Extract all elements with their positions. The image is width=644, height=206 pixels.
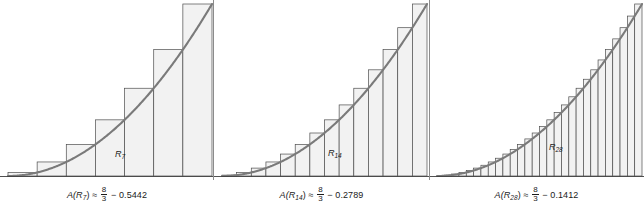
panel-r28-caption-value: 0.1412 (550, 190, 578, 200)
panel-r28-caption-minus: − (542, 190, 547, 200)
panel-r7: R7 A(R7) ≈ 8 3 − 0.5442 (0, 0, 214, 206)
riemann-rectangle (598, 60, 605, 176)
panel-r28-caption-lead: A( (495, 190, 504, 200)
panel-divider-1 (213, 0, 214, 180)
panel-r14-inner-label-sub: 14 (335, 152, 342, 159)
panel-r7-caption-symbol: R (76, 190, 83, 200)
panel-r14-caption-lead: A( (280, 190, 289, 200)
riemann-rectangle (398, 28, 413, 176)
panel-r28-inner-label-sub: 28 (556, 146, 563, 153)
panel-r7-caption-close: ) ≈ (86, 190, 97, 200)
panel-r28-caption-fraction: 8 3 (532, 186, 539, 203)
panel-r14-caption: A(R14) ≈ 8 3 − 0.2789 (214, 187, 429, 204)
panel-r14-caption-value: 0.2789 (335, 190, 363, 200)
riemann-rectangle (591, 70, 598, 176)
riemann-sum-figure: R7 A(R7) ≈ 8 3 − 0.5442 R14 A(R14) ≈ 8 (0, 0, 644, 206)
panel-r14-caption-fraction-numerator: 8 (317, 186, 324, 194)
riemann-rectangle (576, 88, 583, 176)
panel-r7-inner-label: R7 (115, 149, 125, 160)
riemann-rectangle (620, 28, 627, 176)
panel-r28-caption-close: ) ≈ (518, 190, 529, 200)
panel-r28-caption: A(R28) ≈ 8 3 − 0.1412 (429, 187, 644, 204)
riemann-rectangle (532, 133, 539, 176)
panel-r28-caption-fraction-denominator: 3 (532, 194, 539, 203)
panel-r7-inner-label-sub: 7 (122, 153, 126, 160)
panel-r7-caption-fraction: 8 3 (101, 186, 108, 203)
riemann-rectangle (613, 39, 620, 176)
riemann-rectangle (95, 120, 124, 176)
riemann-rectangle (183, 4, 212, 176)
panel-r7-caption-value: 0.5442 (119, 190, 147, 200)
panel-divider-2 (429, 0, 430, 180)
panel-r14-caption-fraction-denominator: 3 (317, 194, 324, 203)
panel-r28-caption-symbol-sub: 28 (510, 194, 517, 201)
riemann-rectangle (635, 4, 642, 176)
panel-r7-caption-minus: − (111, 190, 116, 200)
riemann-rectangle (125, 88, 154, 176)
riemann-rectangle (627, 16, 634, 176)
panel-r14: R14 A(R14) ≈ 8 3 − 0.2789 (214, 0, 429, 206)
riemann-rectangle (605, 50, 612, 176)
riemann-rectangle (569, 97, 576, 176)
panel-r14-caption-fraction: 8 3 (317, 186, 324, 203)
panel-r14-caption-close: ) ≈ (303, 190, 314, 200)
panel-r14-caption-minus: − (327, 190, 332, 200)
riemann-rectangle (583, 79, 590, 176)
riemann-rectangle (412, 4, 427, 176)
panel-r28-caption-fraction-numerator: 8 (532, 186, 539, 194)
panel-r14-plot (214, 0, 429, 206)
panel-r7-plot (0, 0, 214, 206)
panel-r28-inner-label: R28 (549, 142, 563, 153)
panel-r14-inner-label: R14 (328, 148, 342, 159)
panel-r7-caption-fraction-numerator: 8 (101, 186, 108, 194)
panel-r7-caption-lead: A( (67, 190, 76, 200)
riemann-rectangle (561, 105, 568, 176)
panel-r28-plot (429, 0, 644, 206)
panel-r7-caption-fraction-denominator: 3 (101, 194, 108, 203)
riemann-rectangle (540, 127, 547, 176)
panel-r14-caption-symbol-sub: 14 (295, 194, 302, 201)
panel-r28: R28 A(R28) ≈ 8 3 − 0.1412 (429, 0, 644, 206)
riemann-rectangle (339, 105, 354, 176)
panel-r7-caption: A(R7) ≈ 8 3 − 0.5442 (0, 187, 214, 204)
